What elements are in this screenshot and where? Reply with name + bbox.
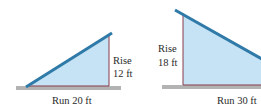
left-ground: [16, 86, 121, 90]
left-run-label: Run 20 ft: [52, 95, 92, 107]
left-triangle: [16, 33, 121, 90]
right-rise-label: Rise: [158, 43, 177, 55]
right-fill: [183, 15, 261, 85]
right-ground: [162, 85, 261, 89]
right-run-label: Run 30 ft: [217, 95, 257, 107]
left-rise-label: Rise: [113, 55, 132, 67]
right-rise-value: 18 ft: [158, 57, 178, 69]
left-rise-value: 12 ft: [113, 68, 133, 80]
